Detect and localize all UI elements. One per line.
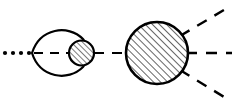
diagram-canvas xyxy=(0,0,232,109)
dotted-line-dot xyxy=(19,51,23,55)
dotted-line-dot xyxy=(27,51,31,55)
upper-right-dashed-line xyxy=(180,7,229,36)
dotted-line-dot xyxy=(3,51,7,55)
diagram-svg xyxy=(0,0,232,109)
dotted-line-dot xyxy=(11,51,15,55)
incoming-dotted-line xyxy=(3,51,31,55)
large-hatched-blob xyxy=(124,20,192,88)
lower-right-dashed-line xyxy=(180,70,229,100)
